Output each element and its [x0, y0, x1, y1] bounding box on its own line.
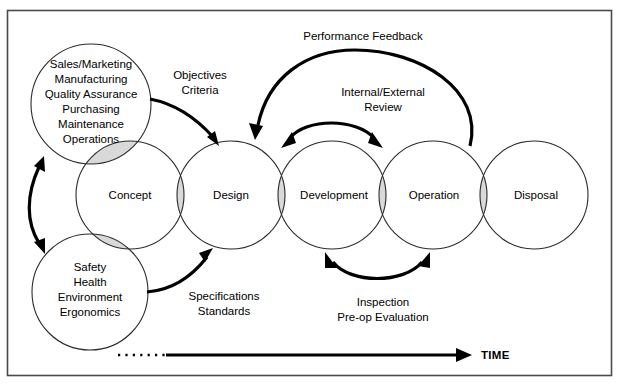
annotation-line: Criteria	[181, 84, 219, 96]
time-axis-label: TIME	[481, 349, 510, 361]
stage-label-concept: Concept	[109, 189, 153, 201]
annotation-line: Internal/External	[341, 86, 425, 98]
satellite-line: Quality Assurance	[45, 88, 138, 100]
annotation-line: Specifications	[189, 290, 260, 302]
satellite-line: Operations	[63, 133, 120, 145]
stage-label-operation: Operation	[409, 189, 460, 201]
annotation-line: Objectives	[173, 69, 227, 81]
satellite-line: Health	[73, 276, 106, 288]
annotation-line: Pre-op Evaluation	[337, 311, 428, 323]
annotation-line: Performance Feedback	[303, 30, 423, 42]
stage-label-design: Design	[213, 189, 249, 201]
satellite-line: Environment	[58, 291, 123, 303]
satellite-line: Ergonomics	[60, 306, 121, 318]
diagram-canvas: Concept Design Development Operation Dis…	[0, 0, 619, 386]
annotation-performance-feedback: Performance Feedback	[303, 30, 423, 42]
satellite-line: Safety	[74, 261, 107, 273]
life-cycle-diagram: Concept Design Development Operation Dis…	[0, 0, 619, 386]
satellite-line: Maintenance	[58, 118, 124, 130]
annotation-line: Review	[364, 101, 402, 113]
stage-label-development: Development	[300, 189, 369, 201]
stage-label-disposal: Disposal	[514, 189, 558, 201]
annotation-line: Standards	[198, 305, 251, 317]
satellite-line: Purchasing	[62, 103, 120, 115]
satellite-line: Manufacturing	[55, 73, 128, 85]
annotation-line: Inspection	[357, 296, 409, 308]
satellite-line: Sales/Marketing	[50, 58, 132, 70]
